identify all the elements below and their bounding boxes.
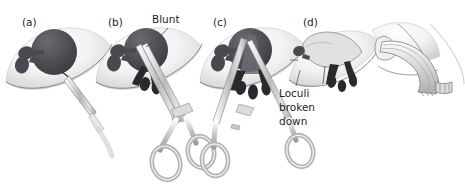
- surgical-figure: (a) (b) (c) (d) Blunt Loculi broken down: [0, 0, 465, 185]
- panel-label-b: (b): [108, 16, 123, 28]
- loculi-callout-label: Loculi broken down: [279, 86, 339, 128]
- panel-label-c: (c): [213, 16, 227, 28]
- corrugated-drain: [380, 41, 452, 96]
- scalpel: [64, 76, 112, 156]
- panel-label-d: (d): [303, 16, 318, 28]
- panel-label-a: (a): [22, 16, 37, 28]
- panel-b-graphic: [96, 28, 217, 183]
- panel-a-graphic: [6, 28, 112, 156]
- figure-illustration: [0, 0, 465, 185]
- panel-e-graphic: [372, 23, 464, 96]
- blunt-callout-label: Blunt: [152, 13, 180, 27]
- panel-d-graphic: [289, 31, 381, 92]
